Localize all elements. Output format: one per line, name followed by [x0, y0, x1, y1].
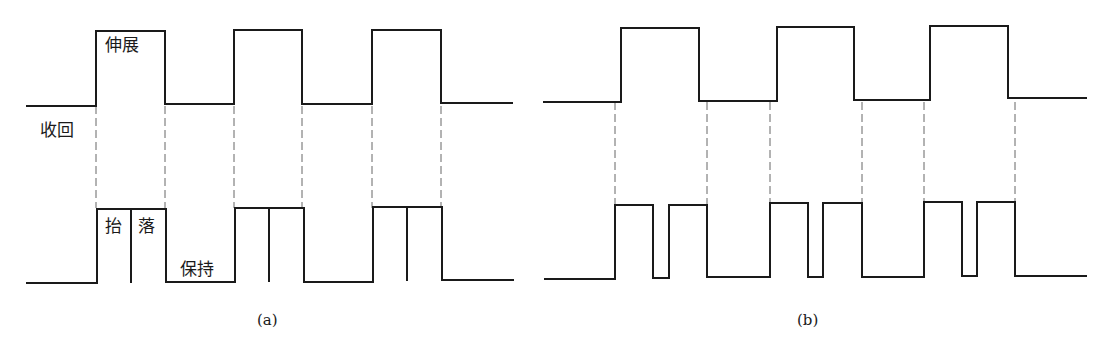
label-lift: 抬 — [105, 216, 122, 236]
panel-a-upper-waveform — [27, 30, 512, 106]
label-drop: 落 — [138, 216, 155, 236]
label-extend: 伸展 — [105, 35, 139, 55]
panel-a-dashed-guides — [96, 106, 441, 208]
timing-diagram: 伸展 收回 抬 落 保持 (a) (b) — [0, 0, 1103, 344]
label-hold: 保持 — [180, 259, 214, 279]
caption-a: (a) — [257, 311, 278, 329]
label-retract: 收回 — [40, 120, 74, 140]
panel-b-lower-waveform — [545, 202, 1086, 279]
panel-a: 伸展 收回 抬 落 保持 (a) — [27, 30, 513, 329]
panel-a-lift-drop-dividers — [131, 207, 407, 283]
panel-b-dashed-guides — [615, 102, 1015, 204]
caption-b: (b) — [797, 311, 818, 329]
panel-b: (b) — [544, 26, 1086, 329]
panel-b-upper-waveform — [544, 26, 1086, 102]
